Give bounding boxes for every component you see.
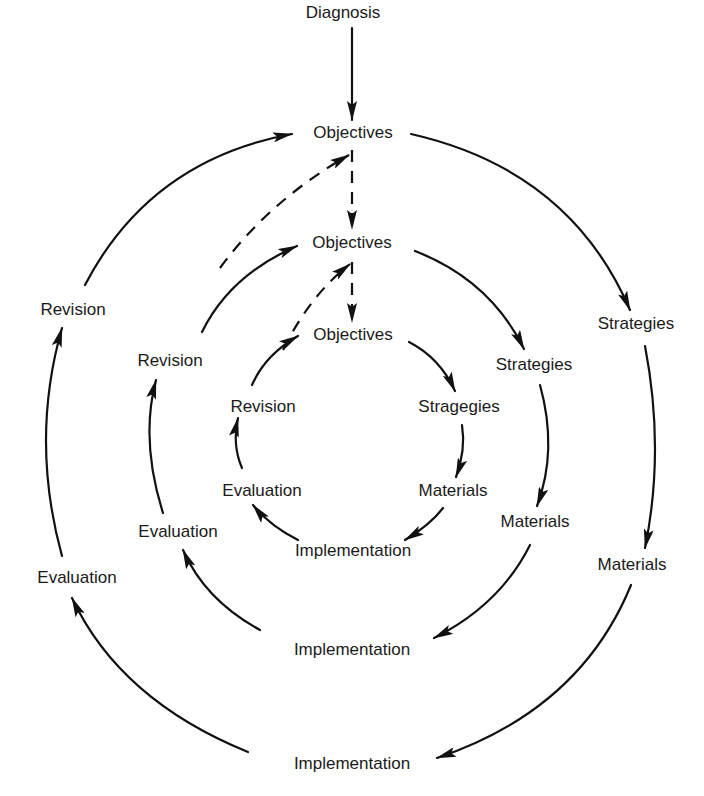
label-outer-materials: Materials [598,555,667,574]
arrow-inner-evaluation-to-revision [236,418,242,468]
arrow-middle-evaluation-to-revision [149,380,163,513]
label-inner-strategies: Stragegies [418,397,499,416]
label-outer-strategies: Strategies [598,314,675,333]
label-outer-objectives: Objectives [313,123,392,142]
label-inner-implementation: Implementation [295,541,411,560]
label-inner-materials: Materials [419,481,488,500]
arrow-outer-materials-to-implementation [437,585,631,758]
arrow-inner-strategies-to-materials [456,425,463,477]
arrow-outer-revision-to-objectives [85,134,292,285]
arrow-middle-objectives-to-strategies [415,251,524,349]
arrow-middle-materials-to-implementation [434,545,530,638]
arrow-outer-evaluation-to-revision [46,328,62,556]
arrow-inner-materials-to-implementation [405,508,443,540]
arrow-middle-implementation-to-evaluation [183,550,260,630]
arrow-inner-revision-to-objectives [252,336,298,385]
curriculum-cycle-diagram: Diagnosis Objectives Strategies Material… [0,0,704,796]
label-middle-objectives: Objectives [312,233,391,252]
label-middle-revision: Revision [137,351,202,370]
arrow-outer-strategies-to-materials [645,346,655,548]
label-outer-revision: Revision [40,300,105,319]
label-outer-evaluation: Evaluation [37,568,116,587]
label-middle-implementation: Implementation [294,640,410,659]
arrow-inner-implementation-to-evaluation [253,505,298,540]
label-middle-strategies: Strategies [496,355,573,374]
arrow-inner-objectives-to-strategies [409,342,455,391]
label-inner-evaluation: Evaluation [222,481,301,500]
arrow-middle-revision-to-objectives [202,246,297,332]
label-diagnosis: Diagnosis [306,3,381,22]
label-middle-evaluation: Evaluation [138,522,217,541]
label-middle-materials: Materials [501,512,570,531]
arrow-middle-strategies-to-materials [537,385,548,506]
label-inner-objectives: Objectives [313,325,392,344]
arrow-outer-implementation-to-evaluation [72,598,248,752]
arrow-outer-objectives-to-strategies [411,134,630,310]
label-outer-implementation: Implementation [294,754,410,773]
label-inner-revision: Revision [230,397,295,416]
